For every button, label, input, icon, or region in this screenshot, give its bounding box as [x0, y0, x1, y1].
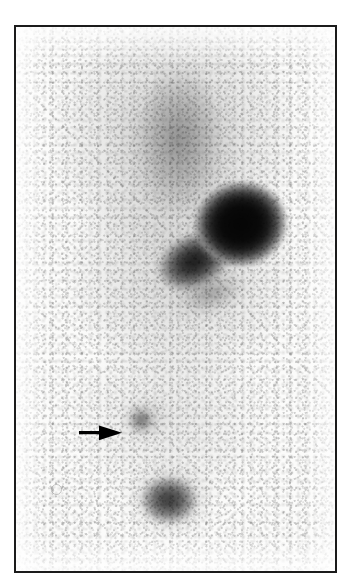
hot-spot-spill: [157, 253, 265, 334]
film-grain-texture: [16, 27, 335, 571]
film-streak-artifact: [16, 27, 335, 76]
scan-page: [0, 0, 351, 588]
hot-spot-tail: [141, 221, 242, 311]
print-ring-artifact: [51, 484, 62, 495]
upper-diffuse-wedge: [112, 32, 246, 217]
arrow-right-icon: [79, 426, 122, 441]
scan-film-frame: [14, 25, 337, 573]
body-background-counts: [14, 27, 337, 571]
annotation-arrow: [78, 422, 126, 444]
scintigram-canvas: [16, 27, 335, 571]
lower-rounded-focus: [137, 473, 201, 527]
photon-speckle-noise: [16, 27, 335, 571]
main-hot-spot: [183, 170, 298, 278]
upper-wedge-halo: [86, 43, 271, 239]
focal-uptake-lesion: [124, 402, 159, 437]
lower-focus-halo: [112, 451, 227, 549]
